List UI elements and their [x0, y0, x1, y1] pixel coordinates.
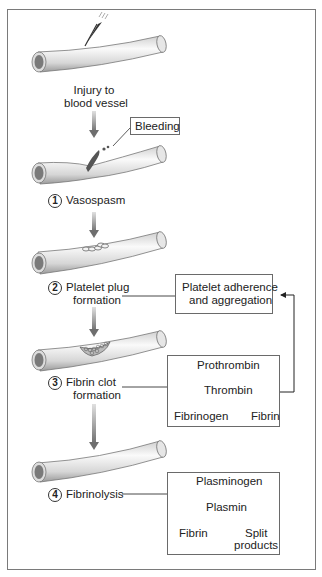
fibrin-product-label: Fibrin	[251, 410, 280, 423]
plasminogen-label: Plasminogen	[196, 475, 262, 488]
step-number-2: 2	[48, 281, 62, 295]
step-number-4: 4	[48, 488, 62, 502]
products-label: products	[234, 539, 278, 552]
step-number-3: 3	[48, 376, 62, 390]
platelet-box-line1: Platelet adherence	[182, 281, 278, 294]
prothrombin-label: Prothrombin	[197, 359, 260, 372]
bleeding-label: Bleeding	[135, 120, 180, 133]
fibrinolysis-box: Plasminogen Plasmin Fibrin Split product…	[167, 472, 280, 555]
step-3-label-line1: Fibrin clot	[66, 376, 116, 388]
fibrinogen-label: Fibrinogen	[174, 410, 228, 423]
vessel-vasospasm	[32, 128, 168, 184]
injury-label-line1: Injury to	[64, 84, 124, 97]
step-4-fibrinolysis: 4Fibrinolysis	[48, 488, 124, 502]
vessel-fibrin-clot	[32, 330, 168, 371]
step-1-label: Vasospasm	[66, 194, 125, 206]
platelet-box-line2: and aggregation	[189, 294, 272, 307]
vessel-fibrinolysis	[32, 440, 168, 482]
step-2-label-line1: Platelet plug	[66, 281, 129, 293]
thrombin-label: Thrombin	[204, 384, 253, 397]
feedback-arrow	[280, 295, 294, 392]
injury-label-line2: blood vessel	[64, 97, 124, 110]
step-number-1: 1	[48, 194, 62, 208]
step-2-platelet-plug: 2Platelet plug	[48, 281, 129, 295]
plasmin-label: Plasmin	[206, 501, 247, 514]
flow-arrow-4	[92, 404, 96, 444]
step-4-label: Fibrinolysis	[66, 488, 124, 500]
injury-label: Injury to blood vessel	[64, 84, 124, 110]
bleeding-box: Bleeding	[130, 117, 180, 135]
step-2-label-line2: formation	[73, 294, 121, 307]
step-3-fibrin-clot: 3Fibrin clot	[48, 376, 116, 390]
step-1-vasospasm: 1Vasospasm	[48, 194, 125, 208]
fibrin-substrate-label: Fibrin	[179, 527, 208, 540]
flow-arrow-1	[92, 111, 96, 132]
flow-arrow-3	[92, 307, 96, 331]
vessel-injury	[32, 12, 168, 72]
coagulation-box: Prothrombin Thrombin Fibrinogen Fibrin	[167, 355, 280, 427]
platelet-adherence-box: Platelet adherence and aggregation	[175, 274, 273, 314]
step-3-label-line2: formation	[73, 389, 121, 402]
flow-arrow-2	[92, 212, 96, 232]
vessel-platelet-plug	[32, 231, 168, 274]
